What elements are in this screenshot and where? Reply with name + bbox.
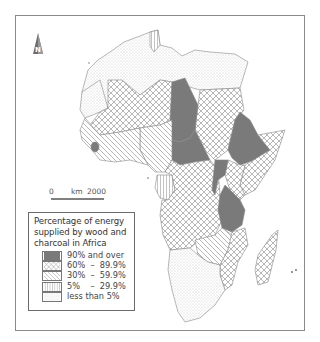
legend-label: less than 5% — [67, 291, 120, 301]
island-dot — [88, 62, 89, 63]
island-dot — [295, 269, 297, 271]
legend-label: 90% and over — [67, 250, 124, 260]
legend-swatch-vertical — [42, 282, 62, 292]
island-dot — [291, 271, 293, 273]
scale-start-label: 0 — [49, 187, 54, 196]
legend-swatch-crosshatch — [42, 261, 62, 271]
legend-label: 30% – 59.9% — [67, 270, 126, 280]
legend-label: 60% – 89.9% — [67, 260, 126, 270]
island-dot — [147, 177, 149, 179]
legend-title-line: charcoal in Africa — [34, 238, 134, 249]
legend-swatch-diagonal — [42, 271, 62, 281]
scale-unit-label: km — [71, 187, 83, 196]
scale-end-label: 2000 — [87, 187, 106, 196]
legend-title-line: supplied by wood and — [34, 227, 134, 238]
legend-title-line: Percentage of energy — [34, 216, 134, 227]
region-madagascar — [255, 230, 278, 285]
legend-swatch-dots — [42, 292, 62, 302]
legend-swatch-solid — [42, 251, 62, 261]
north-arrow-label: N — [35, 46, 41, 54]
region-sierra-leone — [91, 142, 99, 152]
legend-item-less-than-5: less than 5% — [42, 292, 134, 302]
legend-label: 5% – 29.9% — [67, 281, 126, 291]
legend: Percentage of energy supplied by wood an… — [28, 212, 135, 311]
